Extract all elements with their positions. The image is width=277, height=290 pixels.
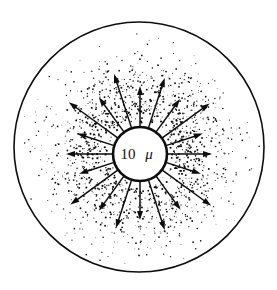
particle-dot	[161, 70, 162, 71]
particle-dot	[74, 172, 76, 174]
particle-dot	[170, 219, 172, 221]
particle-dot	[92, 146, 93, 147]
particle-dot	[130, 201, 131, 202]
particle-dot	[127, 234, 128, 235]
particle-dot	[190, 95, 191, 96]
particle-dot	[111, 183, 112, 184]
particle-dot	[201, 159, 202, 160]
particle-dot	[226, 219, 227, 220]
particle-dot	[154, 203, 155, 204]
particle-dot	[109, 171, 110, 172]
particle-dot	[203, 146, 205, 148]
particle-dot	[45, 116, 47, 118]
particle-dot	[175, 213, 176, 214]
particle-dot	[182, 126, 183, 127]
particle-dot	[191, 109, 193, 111]
particle-dot	[120, 87, 122, 89]
particle-dot	[94, 144, 95, 145]
particle-dot	[65, 218, 66, 219]
particle-dot	[123, 218, 124, 219]
particle-dot	[141, 202, 142, 203]
particle-dot	[122, 109, 123, 110]
particle-dot	[82, 148, 84, 150]
particle-dot	[195, 155, 197, 157]
particle-dot	[151, 76, 152, 77]
particle-dot	[162, 116, 163, 117]
particle-dot	[200, 117, 201, 118]
particle-dot	[232, 133, 233, 134]
particle-dot	[204, 184, 205, 185]
particle-dot	[173, 42, 174, 43]
particle-dot	[187, 96, 189, 98]
particle-dot	[203, 185, 204, 186]
particle-dot	[223, 130, 225, 132]
particle-dot	[160, 232, 161, 233]
particle-dot	[191, 152, 192, 153]
particle-dot	[85, 140, 87, 142]
particle-dot	[147, 247, 148, 248]
particle-dot	[146, 109, 148, 111]
particle-dot	[181, 136, 183, 138]
particle-dot	[217, 178, 218, 179]
particle-dot	[181, 82, 183, 84]
particle-dot	[80, 122, 81, 123]
particle-dot	[104, 208, 105, 209]
particle-dot	[100, 170, 102, 172]
particle-dot	[51, 162, 53, 164]
particle-dot	[198, 74, 199, 75]
particle-dot	[174, 196, 175, 197]
particle-dot	[226, 182, 227, 183]
particle-dot	[155, 91, 157, 93]
particle-dot	[219, 98, 220, 99]
particle-dot	[64, 172, 65, 173]
particle-dot	[126, 191, 127, 192]
particle-dot	[166, 203, 167, 204]
particle-dot	[89, 133, 91, 135]
particle-dot	[144, 109, 146, 111]
particle-dot	[106, 169, 107, 170]
particle-dot	[196, 146, 197, 147]
particle-dot	[149, 40, 150, 41]
particle-dot	[92, 179, 93, 180]
particle-dot	[191, 187, 192, 188]
particle-dot	[116, 116, 118, 118]
particle-dot	[69, 141, 71, 143]
particle-dot	[194, 150, 196, 152]
particle-dot	[141, 244, 142, 245]
particle-dot	[184, 151, 186, 153]
particle-dot	[231, 138, 233, 140]
particle-dot	[185, 174, 187, 176]
particle-dot	[92, 102, 93, 103]
particle-dot	[164, 203, 165, 204]
particle-dot	[196, 123, 197, 124]
particle-dot	[144, 102, 145, 103]
particle-dot	[83, 161, 84, 162]
particle-dot	[218, 135, 219, 136]
particle-dot	[71, 199, 72, 200]
particle-dot	[67, 182, 69, 184]
particle-dot	[60, 156, 61, 157]
particle-dot	[86, 143, 88, 145]
particle-dot	[126, 89, 127, 90]
particle-dot	[91, 122, 92, 123]
particle-dot	[142, 199, 143, 200]
particle-dot	[120, 229, 122, 231]
particle-dot	[136, 113, 138, 115]
particle-dot	[208, 99, 209, 100]
particle-dot	[180, 220, 181, 221]
particle-dot	[83, 236, 84, 237]
particle-dot	[171, 203, 173, 205]
figure-root: 10 μ	[0, 0, 277, 290]
particle-dot	[99, 94, 100, 95]
particle-dot	[94, 84, 95, 85]
particle-dot	[102, 113, 103, 114]
particle-dot	[136, 33, 137, 34]
particle-dot	[128, 212, 130, 214]
particle-dot	[141, 84, 143, 86]
particle-dot	[206, 137, 207, 138]
particle-dot	[204, 214, 205, 215]
particle-dot	[119, 211, 120, 212]
particle-dot	[47, 200, 48, 201]
particle-dot	[132, 101, 134, 103]
particle-dot	[176, 209, 177, 210]
